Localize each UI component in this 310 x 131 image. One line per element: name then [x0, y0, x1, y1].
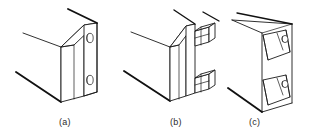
caption-a: (a) — [59, 117, 71, 127]
tab-c-1-hole — [282, 35, 288, 42]
caption-b: (b) — [170, 117, 182, 127]
caption-c: (c) — [249, 117, 260, 127]
technical-figure: .ln{fill:none;stroke:#1a1a1a;stroke-widt… — [0, 0, 310, 131]
bracket-a-hole-2 — [87, 75, 94, 84]
tab-c-2-hole — [282, 80, 288, 87]
bracket-a-hole-1 — [87, 33, 94, 42]
panel-b-side-face — [186, 24, 195, 96]
figure-illustration: .ln{fill:none;stroke:#1a1a1a;stroke-widt… — [0, 0, 310, 131]
